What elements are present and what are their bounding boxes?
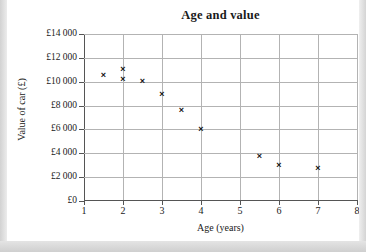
scatter-point: × xyxy=(119,75,128,84)
y-axis-tick-label: £6 000 xyxy=(51,123,77,133)
scatter-plot-area: ×××××××××× xyxy=(84,34,357,201)
x-axis-tick xyxy=(84,200,85,205)
y-axis-tick-label: £12 000 xyxy=(46,52,77,62)
gridline-vertical xyxy=(279,34,280,201)
y-axis-tick-label: £0 xyxy=(68,195,78,205)
x-axis-tick-label: 4 xyxy=(191,205,211,216)
gridline-vertical xyxy=(357,34,358,201)
y-axis-tick-label: £2 000 xyxy=(51,171,77,181)
x-axis-tick xyxy=(357,200,358,205)
gridline-horizontal xyxy=(84,153,357,154)
x-axis-tick-label: 7 xyxy=(308,205,328,216)
x-axis-tick-label: 6 xyxy=(269,205,289,216)
y-axis-tick xyxy=(79,58,84,59)
y-axis-tick xyxy=(79,177,84,178)
gridline-vertical xyxy=(201,34,202,201)
x-axis-tick-label: 2 xyxy=(113,205,133,216)
scan-edge-right xyxy=(359,0,366,252)
scatter-point: × xyxy=(99,71,108,80)
x-axis-tick xyxy=(123,200,124,205)
gridline-horizontal xyxy=(84,129,357,130)
scatter-point: × xyxy=(138,77,147,86)
x-axis-tick-label: 3 xyxy=(152,205,172,216)
x-axis-tick xyxy=(318,200,319,205)
y-axis-tick xyxy=(79,129,84,130)
y-axis-tick xyxy=(79,34,84,35)
x-axis-tick-label: 1 xyxy=(74,205,94,216)
y-axis-tick-label: £14 000 xyxy=(46,28,77,38)
scatter-point: × xyxy=(314,164,323,173)
scatter-point: × xyxy=(119,65,128,74)
gridline-horizontal xyxy=(84,106,357,107)
x-axis-tick-labels: 12345678 xyxy=(84,205,357,219)
gridline-vertical xyxy=(318,34,319,201)
x-axis-tick xyxy=(240,200,241,205)
x-axis-tick xyxy=(162,200,163,205)
scan-edge-bottom xyxy=(0,241,366,252)
y-axis-tick xyxy=(79,82,84,83)
y-axis-tick xyxy=(79,106,84,107)
gridline-horizontal xyxy=(84,177,357,178)
scatter-point: × xyxy=(158,90,167,99)
x-axis-line xyxy=(84,200,357,201)
x-axis-tick xyxy=(279,200,280,205)
scatter-point: × xyxy=(197,125,206,134)
chart-title: Age and value xyxy=(84,8,357,23)
y-axis-tick-label: £8 000 xyxy=(51,100,77,110)
gridline-vertical xyxy=(162,34,163,201)
scatter-point: × xyxy=(275,161,284,170)
scan-edge-left xyxy=(0,0,7,252)
gridline-horizontal xyxy=(84,58,357,59)
y-axis-tick-label: £10 000 xyxy=(46,76,77,86)
y-axis-line xyxy=(84,34,85,201)
x-axis-title: Age (years) xyxy=(84,222,357,233)
x-axis-tick xyxy=(201,200,202,205)
scatter-point: × xyxy=(255,152,264,161)
scatter-point: × xyxy=(177,106,186,115)
gridline-vertical xyxy=(240,34,241,201)
x-axis-tick-label: 5 xyxy=(230,205,250,216)
gridline-horizontal xyxy=(84,34,357,35)
y-axis-tick-label: £4 000 xyxy=(51,147,77,157)
worksheet-sheet: Age and value £0£2 000£4 000£6 000£8 000… xyxy=(7,0,359,241)
y-axis-title: Value of car (£) xyxy=(16,55,27,165)
y-axis-tick xyxy=(79,153,84,154)
gridline-vertical xyxy=(123,34,124,201)
scanned-page-background: Age and value £0£2 000£4 000£6 000£8 000… xyxy=(0,0,366,252)
